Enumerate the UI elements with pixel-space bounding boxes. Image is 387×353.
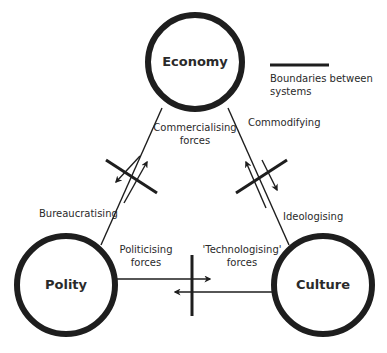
commercialising-forces-label: forces <box>147 135 243 147</box>
diagram-canvas <box>0 0 387 353</box>
boundary-bar-economy-culture <box>236 160 287 193</box>
economy-label: Economy <box>150 54 240 69</box>
politicising-label: Politicising <box>106 244 186 256</box>
politicising-forces-label: forces <box>106 257 186 269</box>
legend-label-line2: systems <box>270 86 311 98</box>
ideologising-label: Ideologising <box>283 211 343 223</box>
bureaucratising-label: Bureaucratising <box>39 208 118 220</box>
commercialising-label: Commercialising <box>147 122 243 134</box>
polity-label: Polity <box>21 277 111 292</box>
legend-label-line1: Boundaries between <box>270 73 373 85</box>
culture-label: Culture <box>278 277 368 292</box>
commodifying-label: Commodifying <box>248 117 321 129</box>
technologising-label: 'Technologising' <box>200 244 284 256</box>
technologising-forces-label: forces <box>200 257 284 269</box>
